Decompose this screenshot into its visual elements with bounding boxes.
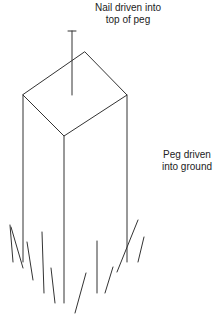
nail-label-line1: Nail driven into — [88, 2, 168, 14]
ground-grass-stroke — [75, 273, 86, 313]
ground-grass-stroke — [51, 268, 55, 303]
nail-label-line2: top of peg — [88, 14, 168, 26]
peg-label-line1: Peg driven — [152, 149, 222, 161]
ground-grass-stroke — [138, 237, 144, 262]
ground-grass-stroke — [27, 242, 33, 280]
ground-grass-stroke — [42, 232, 44, 293]
peg-label: Peg driven into ground — [152, 149, 222, 173]
peg-label-line2: into ground — [152, 161, 222, 173]
ground-grass-stroke — [105, 267, 113, 293]
nail-label: Nail driven into top of peg — [88, 2, 168, 26]
peg-top-face — [23, 52, 127, 136]
